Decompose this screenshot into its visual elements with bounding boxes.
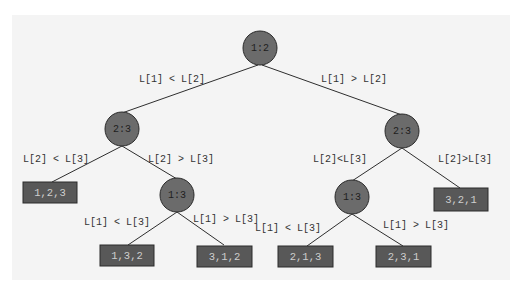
- node-left-2-3-label: 2:3: [113, 124, 131, 135]
- edge-label-l23-left: L[2] < L[3]: [23, 154, 89, 165]
- node-root-label: 1:2: [251, 43, 269, 54]
- edge-root-right: [262, 65, 402, 115]
- node-left-2-3: 2:3: [105, 112, 139, 146]
- node-left-1-3-label: 1:3: [168, 190, 186, 201]
- leaf-1-3-2-label: 1,3,2: [111, 250, 143, 262]
- decision-tree: L[1] < L[2] L[1] > L[2] L[2] < L[3] L[2]…: [0, 0, 528, 296]
- node-right-2-3-label: 2:3: [393, 126, 411, 137]
- edge-root-left: [122, 65, 258, 113]
- leaf-1-2-3-label: 1,2,3: [34, 187, 66, 199]
- node-right-1-3-label: 1:3: [343, 192, 361, 203]
- leaf-2-3-1-label: 2,3,1: [388, 251, 420, 263]
- edge-labels: L[1] < L[2] L[1] > L[2] L[2] < L[3] L[2]…: [23, 74, 492, 234]
- node-right-2-3: 2:3: [385, 114, 419, 148]
- edge-label-root-right: L[1] > L[2]: [321, 74, 387, 85]
- leaf-2-3-1: 2,3,1: [376, 246, 431, 267]
- leaf-3-2-1-label: 3,2,1: [445, 194, 477, 206]
- edge-label-r13-right: L[1] > L[3]: [383, 220, 449, 231]
- edge-label-r13-left: L[1] < L[3]: [255, 223, 321, 234]
- node-left-1-3: 1:3: [160, 178, 194, 212]
- leaf-3-2-1: 3,2,1: [434, 188, 488, 211]
- edge-label-l13-right: L[1] > L[3]: [193, 214, 259, 225]
- leaf-1-3-2: 1,3,2: [100, 245, 154, 266]
- edge-label-l23-right: L[2] > L[3]: [148, 154, 214, 165]
- leaf-3-1-2-label: 3,1,2: [209, 251, 241, 263]
- leaf-1-2-3: 1,2,3: [23, 182, 77, 203]
- edge-label-r23-right: L[2]>L[3]: [438, 154, 492, 165]
- leaf-2-1-3-label: 2,1,3: [290, 251, 322, 263]
- leaf-2-1-3: 2,1,3: [278, 246, 333, 267]
- edge-label-l13-left: L[1] < L[3]: [84, 217, 150, 228]
- edge-label-r23-left: L[2]<L[3]: [313, 154, 367, 165]
- node-root: 1:2: [243, 31, 277, 65]
- leaf-3-1-2: 3,1,2: [197, 246, 252, 267]
- node-right-1-3: 1:3: [335, 180, 369, 214]
- edge-label-root-left: L[1] < L[2]: [139, 74, 205, 85]
